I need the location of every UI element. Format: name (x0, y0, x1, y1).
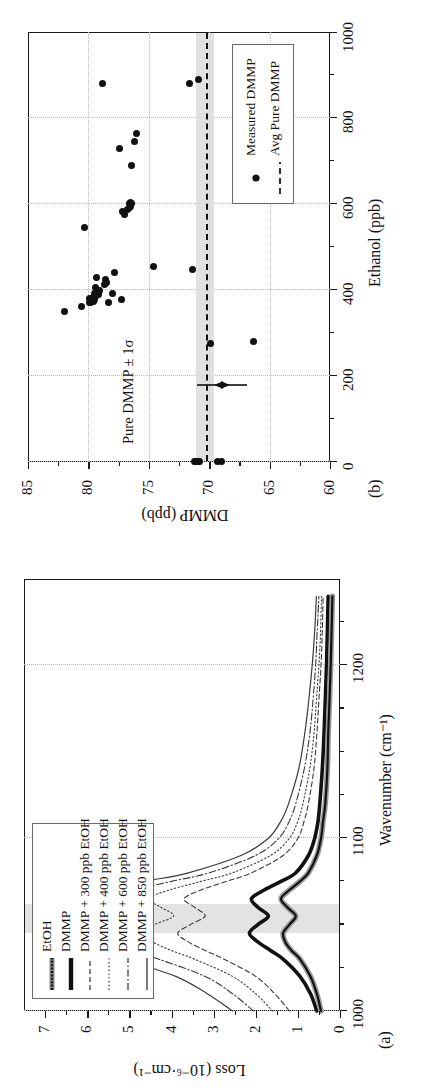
loss-tick-minor-5.5 (108, 1011, 109, 1015)
loss-tick-minor-4.5 (150, 1011, 151, 1015)
wn-tick-minor-1025 (340, 967, 344, 968)
spectrum-line (140, 596, 322, 1011)
panel-a-legend-item-1: DMMP (58, 911, 74, 991)
scatter-point (250, 338, 257, 345)
scatter-point (102, 276, 109, 283)
scatter-point (131, 138, 138, 145)
panel-a-legend-label-1: DMMP (58, 911, 74, 952)
scatter-point (127, 199, 134, 206)
xtick-400 (330, 289, 337, 290)
xticklabel-1000: 1000 (341, 22, 356, 52)
yticklabel-65: 65 (262, 480, 277, 495)
loss-tick-5 (129, 1011, 130, 1018)
loss-tick-4 (172, 1011, 173, 1018)
panel-b-legend-item-1: Avg Pure DMMP (267, 61, 283, 195)
xtick-1000 (330, 32, 337, 33)
scatter-point (133, 130, 140, 137)
ytick-minor-72.5 (179, 462, 180, 466)
panel-a-legend-label-3: DMMP + 400 ppb EtOH (96, 818, 112, 952)
panel-b-legend-item-0: Measured DMMP (243, 58, 259, 195)
loss-ticklabel-1: 1 (290, 1026, 305, 1034)
ytick-80 (88, 462, 89, 469)
loss-tick-6 (87, 1011, 88, 1018)
loss-ticklabel-3: 3 (206, 1026, 221, 1034)
scatter-point (218, 459, 225, 466)
loss-tick-1 (298, 1011, 299, 1018)
ytick-85 (28, 462, 29, 469)
xticklabel-600: 600 (341, 197, 356, 220)
yticklabel-85: 85 (20, 480, 35, 495)
loss-tick-3 (214, 1011, 215, 1018)
panel-a-legend-item-2: DMMP + 300 ppb EtOH (77, 818, 93, 991)
loss-ticklabel-6: 6 (79, 1026, 94, 1034)
scatter-point (186, 80, 193, 87)
xticklabel-800: 800 (341, 111, 356, 134)
wn-tick-minor-1050 (340, 923, 344, 924)
xticklabel-0: 0 (341, 463, 356, 471)
wn-tick-minor-1125 (340, 794, 344, 795)
scatter-point (99, 80, 106, 87)
ytick-minor-77.5 (119, 462, 120, 466)
scatter-point (81, 224, 88, 231)
wn-ticklabel-1000: 1000 (351, 999, 366, 1029)
loss-tick-minor-6.5 (66, 1011, 67, 1015)
wn-tick-1200 (340, 664, 347, 665)
ytick-60 (330, 462, 331, 469)
wn-ticklabel-1200: 1200 (351, 653, 366, 683)
scatter-point (105, 299, 112, 306)
xtick-minor-100 (330, 418, 334, 419)
panel-a-yaxis-label: Loss (10⁻⁶·cm⁻¹) (133, 1061, 245, 1080)
figure-page: Pure DMMP ± 1σ 0 200 400 600 800 (0, 0, 430, 1091)
scatter-point (78, 303, 85, 310)
loss-ticklabel-7: 7 (37, 1026, 52, 1034)
panel-b-xaxis-label: Ethanol (ppb) (366, 199, 384, 287)
panel-b-legend-label-1: Avg Pure DMMP (267, 61, 283, 156)
panel-a-legend-item-0: EtOH (39, 921, 55, 992)
loss-ticklabel-2: 2 (248, 1026, 263, 1034)
ytick-minor-82.5 (58, 462, 59, 466)
xtick-800 (330, 117, 337, 118)
xticklabel-400: 400 (341, 283, 356, 306)
panel-a-legend: EtOH DMMP DMMP + 300 ppb EtOH (32, 823, 154, 999)
loss-ticklabel-0: 0 (332, 1026, 347, 1034)
scatter-point (128, 162, 135, 169)
panel-a-legend-label-0: EtOH (39, 921, 55, 953)
xtick-minor-300 (330, 332, 334, 333)
loss-tick-minor-1.5 (277, 1011, 278, 1015)
scatter-point (111, 269, 118, 276)
panel-b-legend-label-0: Measured DMMP (243, 58, 259, 156)
panel-a-legend-label-2: DMMP + 300 ppb EtOH (77, 818, 93, 952)
spectrum-line (178, 596, 323, 1011)
scatter-point (196, 459, 203, 466)
panel-a-legend-label-4: DMMP + 600 ppb EtOH (115, 818, 131, 952)
loss-ticklabel-4: 4 (164, 1026, 179, 1034)
panel-a-legend-item-3: DMMP + 400 ppb EtOH (96, 818, 112, 991)
yticklabel-60: 60 (322, 480, 337, 495)
loss-tick-minor-2.5 (235, 1011, 236, 1015)
xtick-minor-900 (330, 74, 334, 75)
scatter-point (93, 274, 100, 281)
loss-tick-minor-3.5 (193, 1011, 194, 1015)
scatter-point (195, 76, 202, 83)
panel-a-legend-item-4: DMMP + 600 ppb EtOH (115, 818, 131, 991)
ytick-75 (149, 462, 150, 469)
wn-tick-1100 (340, 837, 347, 838)
xtick-200 (330, 375, 337, 376)
panel-a-legend-item-5: DMMP + 850 ppb EtOH (134, 818, 150, 991)
loss-tick-2 (256, 1011, 257, 1018)
yticklabel-80: 80 (80, 480, 95, 495)
xtick-minor-500 (330, 246, 334, 247)
wn-tick-minor-1225 (340, 621, 344, 622)
scatter-point (118, 296, 125, 303)
panel-a-label: (a) (376, 1031, 394, 1049)
scatter-point (207, 340, 214, 347)
wn-tick-minor-1150 (340, 751, 344, 752)
wn-tick-minor-1075 (340, 880, 344, 881)
ytick-70 (209, 462, 210, 469)
scatter-point (61, 308, 68, 315)
wn-ticklabel-1100: 1100 (351, 827, 366, 856)
sigma-annotation: Pure DMMP ± 1σ (120, 340, 137, 444)
panel-b: Pure DMMP ± 1σ 0 200 400 600 800 (0, 0, 430, 540)
xticklabel-200: 200 (341, 369, 356, 392)
xtick-minor-700 (330, 160, 334, 161)
